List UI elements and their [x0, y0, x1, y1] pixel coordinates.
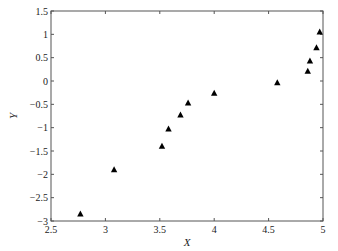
triangle-marker	[159, 143, 165, 149]
y-axis-label: Y	[7, 111, 19, 119]
triangle-marker	[111, 166, 117, 172]
triangle-marker	[77, 211, 83, 217]
y-tick-label: −2	[37, 169, 48, 180]
y-tick-label: −0.5	[30, 99, 48, 110]
y-tick-label: 0.5	[36, 52, 49, 63]
y-tick-label: 1.5	[36, 6, 49, 17]
y-tick-label: 0	[43, 76, 48, 87]
triangle-marker	[305, 68, 311, 74]
triangle-marker	[185, 99, 191, 105]
y-tick-label: 1	[43, 29, 48, 40]
triangle-marker	[313, 44, 319, 50]
scatter-chart: 2.533.544.551.510.50−0.5−1−1.5−2−2.5−3 X…	[0, 0, 338, 251]
triangle-marker	[177, 112, 183, 118]
triangle-marker	[211, 90, 217, 96]
x-tick-label: 3	[103, 224, 108, 235]
y-tick-label: −2.5	[30, 192, 48, 203]
y-tick-label: −1.5	[30, 146, 48, 157]
x-tick-label: 4.5	[262, 224, 275, 235]
plot-frame	[51, 11, 323, 221]
tick-labels: 2.533.544.551.510.50−0.5−1−1.5−2−2.5−3	[30, 6, 326, 236]
y-tick-label: −3	[37, 216, 48, 227]
data-points	[77, 29, 323, 217]
triangle-marker	[274, 79, 280, 85]
y-tick-label: −1	[37, 122, 48, 133]
x-tick-label: 4	[212, 224, 217, 235]
axis-ticks	[51, 11, 323, 221]
x-tick-label: 3.5	[154, 224, 167, 235]
triangle-marker	[317, 29, 323, 35]
triangle-marker	[165, 126, 171, 132]
x-tick-label: 5	[321, 224, 326, 235]
triangle-marker	[307, 57, 313, 63]
x-axis-label: X	[183, 236, 192, 248]
